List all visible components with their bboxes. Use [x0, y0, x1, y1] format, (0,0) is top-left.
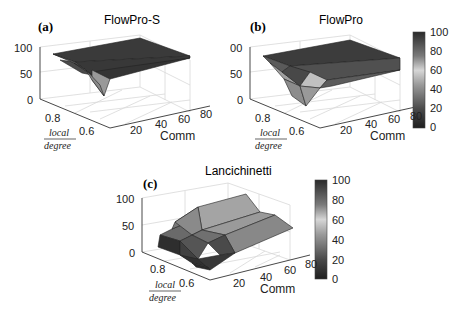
- colorbar-tick: 20: [332, 254, 344, 266]
- chart-panel-c: 100 80 60 40 20 0 (c) Lancichinetti 100 …: [110, 155, 365, 312]
- panel-label-c: (c): [143, 176, 157, 191]
- panel-label-b: (b): [250, 19, 266, 34]
- x-tick: 60: [178, 113, 190, 125]
- colorbar-tick: 100: [332, 174, 350, 186]
- colorbar-tick: 80: [332, 194, 344, 206]
- z-tick: 50: [230, 68, 242, 80]
- z-tick: 100: [230, 42, 242, 54]
- x-tick: 80: [200, 108, 212, 120]
- y-tick: 0.8: [150, 263, 165, 275]
- y-axis-label-num: local: [260, 127, 280, 138]
- x-tick: 20: [233, 277, 245, 289]
- z-tick: 0: [27, 94, 33, 106]
- colorbar-tick: 60: [430, 64, 442, 76]
- colorbar-tick: 0: [332, 273, 338, 285]
- chart-title-b: FlowPro: [319, 13, 363, 27]
- colorbar-tick: 60: [332, 214, 344, 226]
- z-tick: 100: [14, 42, 32, 54]
- chart-title-c: Lancichinetti: [205, 164, 272, 178]
- y-axis-label-den: degree: [44, 140, 71, 151]
- y-tick: 0.6: [289, 125, 304, 137]
- x-tick: 20: [130, 124, 142, 136]
- colorbar-tick: 100: [430, 26, 448, 38]
- colorbar-tick: 20: [430, 102, 442, 114]
- x-tick: 60: [284, 264, 296, 276]
- z-tick: 0: [129, 247, 135, 259]
- surface-a: [53, 38, 190, 96]
- y-axis-label-den: degree: [149, 292, 176, 303]
- x-tick: 60: [388, 113, 400, 125]
- x-tick: 20: [340, 124, 352, 136]
- chart-panel-b: 100 80 60 40 20 0 (b) FlowPro 100 50 0 0…: [230, 0, 465, 160]
- x-axis-label: Comm: [370, 129, 405, 143]
- z-tick: 50: [20, 68, 32, 80]
- colorbar-tick: 40: [430, 83, 442, 95]
- colorbar-tick: 40: [332, 234, 344, 246]
- chart-title-a: FlowPro-S: [104, 13, 160, 27]
- z-tick: 50: [122, 220, 134, 232]
- x-axis-label: Comm: [260, 282, 295, 296]
- x-tick: 80: [305, 258, 317, 270]
- x-tick: 80: [410, 110, 422, 122]
- x-axis-label: Comm: [160, 129, 195, 143]
- y-tick: 0.8: [255, 112, 270, 124]
- z-tick: 100: [116, 193, 134, 205]
- y-axis-label-num: local: [49, 127, 69, 138]
- y-axis-label-den: degree: [255, 140, 282, 151]
- y-tick: 0.6: [179, 277, 194, 289]
- colorbar-tick: 0: [430, 121, 436, 133]
- y-tick: 0.8: [45, 112, 60, 124]
- y-tick: 0.6: [79, 125, 94, 137]
- y-axis-label-num: local: [155, 279, 175, 290]
- colorbar-tick: 80: [430, 45, 442, 57]
- chart-panel-a: (a) FlowPro-S 100 50 0 0.8 0.6 20 40 60 …: [0, 0, 230, 160]
- panel-label-a: (a): [38, 19, 53, 34]
- z-tick: 0: [237, 94, 243, 106]
